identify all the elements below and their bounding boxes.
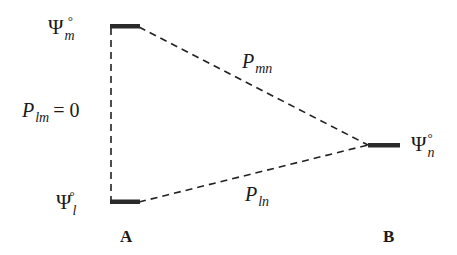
subscript: n	[428, 145, 435, 160]
superscript: °	[69, 188, 74, 203]
level-bar-n	[368, 143, 400, 148]
p-symbol: P	[242, 50, 254, 72]
superscript: °	[68, 13, 73, 28]
level-label-m: Ψm°	[48, 17, 73, 38]
transition-label-ln: Pln	[245, 184, 269, 204]
p-symbol: P	[245, 183, 257, 205]
subscript: m	[65, 28, 75, 43]
site-label-b: B	[383, 228, 394, 245]
level-label-l: Ψl°	[56, 192, 75, 213]
value: = 0	[53, 99, 79, 121]
subscript: ln	[258, 194, 269, 209]
site-label-a: A	[120, 228, 132, 245]
transition-line-mn	[139, 27, 368, 145]
subscript: mn	[255, 61, 272, 76]
level-bar-m	[110, 24, 140, 29]
subscript: lm	[35, 110, 49, 125]
level-bar-l	[110, 200, 140, 205]
psi-symbol: Ψ	[48, 15, 64, 39]
superscript: °	[428, 130, 433, 145]
psi-symbol: Ψ	[411, 132, 427, 156]
transition-label-lm: Plm= 0	[22, 100, 80, 120]
subscript: l	[73, 203, 77, 218]
transition-label-mn: Pmn	[242, 51, 272, 71]
p-symbol: P	[22, 99, 34, 121]
level-label-n: Ψn°	[411, 134, 433, 155]
